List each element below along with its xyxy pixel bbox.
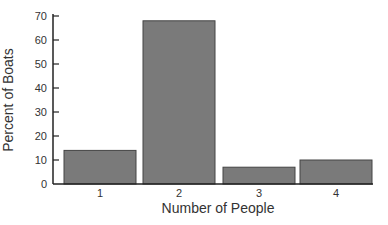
bar <box>300 160 372 184</box>
y-tick-label: 60 <box>35 34 47 46</box>
x-tick-label: 3 <box>256 187 262 199</box>
y-tick-label: 40 <box>35 82 47 94</box>
y-axis-title: Percent of Boats <box>0 48 16 152</box>
bar <box>143 21 215 184</box>
y-tick-label: 50 <box>35 58 47 70</box>
bar-chart: 1234010203040506070 Percent of Boats Num… <box>0 0 388 225</box>
x-axis-title: Number of People <box>162 200 275 216</box>
y-tick-label: 30 <box>35 106 47 118</box>
y-tick-label: 20 <box>35 130 47 142</box>
y-tick-label: 10 <box>35 154 47 166</box>
bar <box>64 150 136 184</box>
y-tick-label: 70 <box>35 10 47 22</box>
x-tick-label: 4 <box>333 187 339 199</box>
bar <box>223 167 295 184</box>
chart-canvas: 1234010203040506070 <box>0 0 388 225</box>
x-tick-label: 1 <box>97 187 103 199</box>
x-tick-label: 2 <box>176 187 182 199</box>
y-tick-label: 0 <box>41 178 47 190</box>
